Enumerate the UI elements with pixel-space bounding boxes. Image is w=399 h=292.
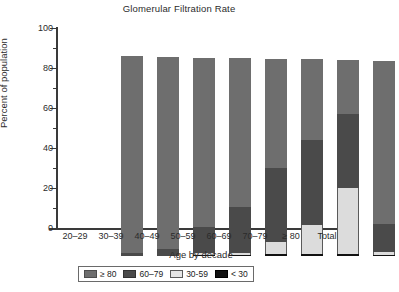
y-tick-label: 60 (43, 103, 57, 113)
bar-column (330, 56, 366, 256)
bar-column (186, 56, 222, 256)
legend-item: 60–79 (123, 269, 163, 279)
chart-legend: ≥ 8060–7930-59< 30 (78, 266, 254, 282)
stacked-bar (157, 56, 179, 256)
stacked-bar (301, 56, 323, 256)
legend-swatch-icon (170, 270, 183, 278)
y-axis-title: Percent of population (0, 38, 9, 128)
x-tick-label: 40–49 (129, 231, 165, 247)
legend-item: ≥ 80 (84, 269, 116, 279)
bar-column (222, 56, 258, 256)
bar-column (114, 56, 150, 256)
y-tick-label: 40 (43, 143, 57, 153)
x-tick-label: 70–79 (237, 231, 273, 247)
bar-segment (193, 58, 215, 228)
bar-segment (301, 140, 323, 225)
y-tick-label: 80 (43, 63, 57, 73)
legend-swatch-icon (84, 270, 97, 278)
stacked-bar (121, 56, 143, 256)
stacked-bar (229, 56, 251, 256)
legend-item-label: ≥ 80 (100, 269, 116, 279)
legend-item-label: < 30 (231, 269, 248, 279)
bar-column (294, 56, 330, 256)
x-tick-label: 60–69 (201, 231, 237, 247)
y-tick-label: 100 (38, 23, 57, 33)
x-axis-tick-labels: 20–2930–3940–4950–5960–6970–79≥ 80Total (57, 231, 345, 247)
x-tick-label: 50–59 (165, 231, 201, 247)
bar-segment (373, 61, 395, 224)
y-tick-label: 20 (43, 183, 57, 193)
stacked-bar (337, 56, 359, 256)
bar-segment (301, 59, 323, 140)
stacked-bar (193, 56, 215, 256)
bar-column (150, 56, 186, 256)
y-tick-label: 0 (48, 223, 57, 233)
legend-item-label: 30-59 (186, 269, 208, 279)
bar-segment (373, 255, 395, 256)
bar-segment (157, 57, 179, 249)
bar-segment (373, 224, 395, 252)
legend-item-label: 60–79 (139, 269, 163, 279)
legend-swatch-icon (123, 270, 136, 278)
legend-item: < 30 (215, 269, 248, 279)
x-tick-label: 30–39 (93, 231, 129, 247)
bar-column (258, 56, 294, 256)
stacked-bar (373, 56, 395, 256)
bar-segment (337, 114, 359, 188)
bar-segment (229, 58, 251, 207)
plot-area (57, 28, 345, 228)
bar-segment (337, 60, 359, 114)
x-tick-label: Total (309, 231, 345, 247)
bar-segment (265, 59, 287, 168)
x-tick-label: 20–29 (57, 231, 93, 247)
legend-item: 30-59 (170, 269, 208, 279)
legend-swatch-icon (215, 270, 228, 278)
bar-column (366, 56, 399, 256)
x-axis-title: Age by decade (57, 249, 345, 260)
bar-segment (121, 56, 143, 253)
stacked-bar (265, 56, 287, 256)
x-tick-label: ≥ 80 (273, 231, 309, 247)
bar-group (114, 56, 399, 256)
chart-title: Glomerular Filtration Rate (0, 3, 358, 14)
